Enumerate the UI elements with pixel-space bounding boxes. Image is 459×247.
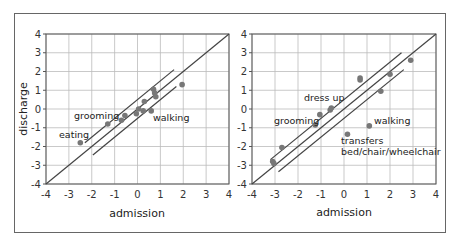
data-point xyxy=(271,161,277,167)
data-point xyxy=(378,88,384,94)
x-tick-label: -2 xyxy=(87,189,97,200)
x-tick-label: 0 xyxy=(341,189,347,200)
x-tick-label: -2 xyxy=(293,189,303,200)
label-transfers: transfers xyxy=(341,135,384,146)
data-point xyxy=(142,99,148,105)
x-tick-label: -4 xyxy=(41,189,51,200)
x-tick-label: -3 xyxy=(270,189,280,200)
label-grooming-right: grooming xyxy=(274,115,319,126)
label-eating: eating xyxy=(59,129,89,140)
y-tick-label: -1 xyxy=(31,122,41,133)
data-point xyxy=(105,121,111,127)
left-scatter-panel: -4-3-2-101234-4-3-2-101234 xyxy=(31,29,232,201)
x-axis-label-right: admission xyxy=(316,206,372,219)
label-dress-up: dress up xyxy=(304,92,345,103)
y-tick-label: 1 xyxy=(241,85,247,96)
x-tick-label: 1 xyxy=(157,189,163,200)
x-tick-label: 4 xyxy=(433,189,439,200)
y-tick-label: -2 xyxy=(31,141,41,152)
data-point xyxy=(408,57,414,63)
label-grooming-left: grooming xyxy=(74,110,119,121)
y-tick-label: 4 xyxy=(35,29,41,40)
x-tick-label: -1 xyxy=(110,189,120,200)
data-point xyxy=(357,75,363,81)
y-tick-label: 3 xyxy=(241,47,247,58)
x-tick-label: 2 xyxy=(180,189,186,200)
y-tick-label: -1 xyxy=(237,122,247,133)
data-point xyxy=(140,108,146,114)
x-tick-label: 2 xyxy=(387,189,393,200)
y-tick-label: -4 xyxy=(31,179,41,190)
data-point xyxy=(367,123,373,129)
y-tick-label: 4 xyxy=(241,29,247,40)
data-point xyxy=(119,117,125,123)
x-tick-label: 3 xyxy=(410,189,416,200)
y-tick-label: 2 xyxy=(35,66,41,77)
y-tick-label: -2 xyxy=(237,141,247,152)
data-point xyxy=(153,94,159,100)
data-point xyxy=(179,82,185,88)
data-point xyxy=(387,72,393,78)
x-tick-label: -4 xyxy=(247,189,257,200)
x-tick-label: -1 xyxy=(316,189,326,200)
data-point xyxy=(329,105,335,111)
x-tick-label: -3 xyxy=(64,189,74,200)
data-point xyxy=(279,145,285,151)
y-tick-label: 0 xyxy=(241,104,247,115)
label-bed-chair-wheelchair: bed/chair/wheelchair xyxy=(341,146,441,157)
y-tick-label: 2 xyxy=(241,66,247,77)
x-tick-label: 3 xyxy=(203,189,209,200)
label-walking-left: walking xyxy=(153,112,189,123)
x-tick-label: 0 xyxy=(134,189,140,200)
y-tick-label: -3 xyxy=(237,160,247,171)
chart-canvas: -4-3-2-101234-4-3-2-101234 -4-3-2-101234… xyxy=(0,0,459,247)
data-point xyxy=(122,113,128,119)
x-tick-label: 1 xyxy=(364,189,370,200)
y-tick-label: 0 xyxy=(35,104,41,115)
y-axis-label: discharge xyxy=(17,82,30,136)
y-tick-label: -3 xyxy=(31,160,41,171)
label-walking-right: walking xyxy=(374,115,410,126)
y-tick-label: 3 xyxy=(35,47,41,58)
y-tick-label: 1 xyxy=(35,85,41,96)
y-tick-label: -4 xyxy=(237,179,247,190)
data-point xyxy=(78,140,84,146)
x-axis-label-left: admission xyxy=(109,207,165,220)
x-tick-label: 4 xyxy=(226,189,232,200)
